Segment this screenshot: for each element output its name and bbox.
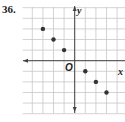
data-point xyxy=(51,37,55,41)
data-point xyxy=(41,27,45,31)
data-point xyxy=(104,90,108,94)
data-point xyxy=(83,69,87,73)
y-axis-arrow-down-icon xyxy=(73,107,77,112)
x-axis-label: x xyxy=(117,66,123,77)
data-point xyxy=(62,48,66,52)
axes: y x O xyxy=(23,5,125,113)
data-point xyxy=(94,80,98,84)
x-axis-arrow-left-icon xyxy=(23,59,28,63)
y-axis-label: y xyxy=(76,5,82,16)
coordinate-plane: y x O xyxy=(0,0,125,122)
origin-label: O xyxy=(65,62,73,73)
